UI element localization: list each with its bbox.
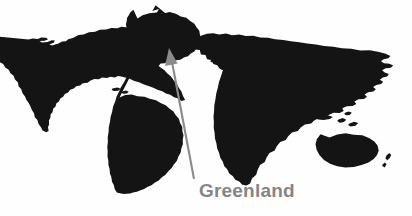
landmass-australia — [315, 133, 378, 167]
landmass-new-zealand — [382, 153, 391, 167]
world-map-figure: Greenland — [0, 0, 412, 216]
greenland-label: Greenland — [199, 181, 295, 201]
